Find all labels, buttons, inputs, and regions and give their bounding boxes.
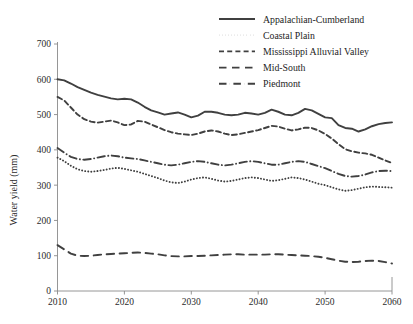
- y-tick-label: 300: [37, 181, 52, 191]
- series-line-mississippi-alluvial-valley: [58, 97, 393, 163]
- y-tick-label: 200: [37, 216, 52, 226]
- y-axis-ticks: 0100200300400500600700: [37, 39, 58, 296]
- x-axis-ticks: 201020202030204020502060: [48, 291, 402, 307]
- y-tick-label: 100: [37, 251, 52, 261]
- chart-figure: 0100200300400500600700 20102020203020402…: [0, 0, 413, 324]
- data-series-group: [58, 79, 393, 263]
- series-line-mid-south: [58, 245, 393, 263]
- legend-label-coastal-plain: Coastal Plain: [263, 30, 315, 41]
- water-yield-line-chart: 0100200300400500600700 20102020203020402…: [0, 0, 413, 324]
- legend-label-mississippi-alluvial-valley: Mississippi Alluvial Valley: [263, 46, 369, 57]
- y-axis-title: Water yield (mm): [8, 155, 20, 226]
- x-tick-label: 2030: [182, 297, 201, 307]
- x-tick-label: 2010: [48, 297, 67, 307]
- y-tick-label: 700: [37, 39, 52, 49]
- y-tick-label: 0: [46, 286, 51, 296]
- y-tick-label: 600: [37, 75, 52, 85]
- x-tick-label: 2040: [249, 297, 268, 307]
- legend-label-appalachian-cumberland: Appalachian-Cumberland: [263, 14, 364, 25]
- legend-label-mid-south: Mid-South: [263, 62, 306, 73]
- y-tick-label: 400: [37, 145, 52, 155]
- x-tick-label: 2060: [383, 297, 402, 307]
- chart-legend: Appalachian-CumberlandCoastal PlainMissi…: [219, 14, 369, 90]
- x-tick-label: 2050: [316, 297, 335, 307]
- series-line-piedmont: [58, 148, 393, 177]
- series-line-appalachian-cumberland: [58, 79, 393, 131]
- x-tick-label: 2020: [115, 297, 134, 307]
- legend-label-piedmont: Piedmont: [263, 78, 301, 89]
- y-tick-label: 500: [37, 110, 52, 120]
